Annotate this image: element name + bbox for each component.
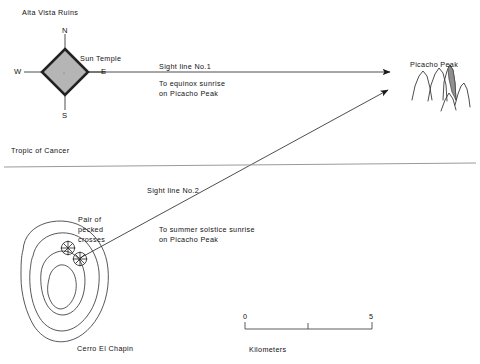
pecked-crosses-label-line2: pecked bbox=[78, 225, 103, 235]
sight-line-2-label: Sight line No.2 bbox=[147, 186, 199, 196]
figure-canvas: Alta Vista Ruins N S W E Sun Temple Sigh… bbox=[0, 0, 480, 364]
diagram-svg bbox=[0, 0, 480, 364]
sun-temple-label: Sun Temple bbox=[80, 54, 121, 64]
sight-line-1-target-line1: To equinox sunrise bbox=[159, 79, 225, 89]
pecked-crosses-label-line3: crosses bbox=[78, 235, 105, 245]
scale-bar-min-label: 0 bbox=[243, 312, 247, 322]
sight-line-2-target-line1: To summer solstice sunrise bbox=[159, 225, 255, 235]
sight-line-1-target-line2: on Picacho Peak bbox=[159, 89, 218, 99]
picacho-peak-label: Picacho Peak bbox=[410, 60, 458, 70]
scale-bar bbox=[245, 322, 372, 329]
tropic-of-cancer-line bbox=[4, 163, 476, 167]
alta-vista-ruins-label: Alta Vista Ruins bbox=[22, 8, 78, 18]
sight-line-1-label: Sight line No.1 bbox=[159, 62, 211, 72]
picacho-peak-mountains bbox=[412, 65, 470, 111]
compass-north-label: N bbox=[62, 26, 68, 36]
scale-bar-max-label: 5 bbox=[369, 312, 373, 322]
pecked-crosses-label-line1: Pair of bbox=[78, 215, 101, 225]
compass-west-label: W bbox=[14, 67, 21, 77]
sight-line-2-target-line2: on Picacho Peak bbox=[159, 235, 218, 245]
cerro-el-chapin-label: Cerro El Chapin bbox=[77, 344, 133, 354]
compass-south-label: S bbox=[62, 111, 67, 121]
compass-east-label: E bbox=[101, 67, 106, 77]
scale-bar-units-label: Kilometers bbox=[249, 345, 286, 355]
pecked-cross-upper bbox=[61, 241, 76, 256]
sun-temple-center-dot bbox=[63, 72, 64, 73]
tropic-of-cancer-label: Tropic of Cancer bbox=[11, 146, 69, 156]
pecked-cross-lower bbox=[73, 252, 88, 267]
